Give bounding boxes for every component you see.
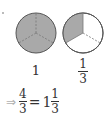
numerator: 4 (19, 88, 27, 100)
label-one-third: 1 3 (78, 58, 88, 85)
mixed-fraction-part: 1 3 (51, 88, 59, 115)
fraction-circles (0, 0, 108, 60)
denominator: 3 (79, 73, 87, 85)
denominator: 3 (51, 103, 59, 115)
label-whole: 1 (30, 64, 42, 77)
circle-whole (16, 13, 56, 53)
arrow-icon: ⇒ (6, 95, 16, 109)
numerator: 1 (51, 88, 59, 100)
whole-number: 1 (42, 94, 51, 110)
improper-fraction: 4 3 (19, 88, 27, 115)
equation: ⇒ 4 3 = 1 1 3 (6, 88, 59, 115)
numerator: 1 (79, 58, 87, 70)
circle-one-third (63, 13, 103, 53)
denominator: 3 (19, 103, 27, 115)
equals-sign: = (29, 94, 41, 110)
